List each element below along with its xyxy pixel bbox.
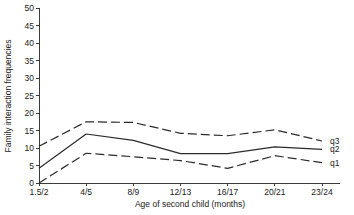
- series-line-q1: [39, 153, 322, 183]
- y-tick-group: 05101520253035404550: [25, 3, 39, 188]
- y-tick-label: 30: [25, 73, 35, 83]
- x-axis: 1.5/24/58/912/1316/1720/2123/24: [30, 183, 340, 197]
- y-tick-label: 45: [25, 21, 35, 31]
- series-label-q2: q2: [330, 144, 340, 154]
- x-tick-label: 23/24: [311, 187, 333, 197]
- y-tick-label: 25: [25, 91, 35, 101]
- y-tick-label: 50: [25, 3, 35, 13]
- y-tick-label: 35: [25, 56, 35, 66]
- x-tick-label: 12/13: [170, 187, 192, 197]
- chart-container: 05101520253035404550 1.5/24/58/912/1316/…: [0, 0, 354, 215]
- y-axis: 05101520253035404550: [25, 3, 39, 188]
- series-group: [39, 122, 322, 183]
- series-label-q1: q1: [330, 158, 340, 168]
- y-tick-label: 10: [25, 143, 35, 153]
- series-label-group: q3q2q1: [330, 136, 340, 168]
- line-chart: 05101520253035404550 1.5/24/58/912/1316/…: [0, 0, 354, 215]
- x-axis-title: Age of second child (months): [135, 199, 245, 209]
- x-tick-label: 1.5/2: [30, 187, 49, 197]
- y-tick-label: 15: [25, 126, 35, 136]
- x-tick-label: 16/17: [217, 187, 239, 197]
- x-tick-label: 4/5: [80, 187, 92, 197]
- series-line-q2: [39, 134, 322, 168]
- series-line-q3: [39, 122, 322, 147]
- y-tick-label: 20: [25, 108, 35, 118]
- x-tick-group: 1.5/24/58/912/1316/1720/2123/24: [30, 183, 333, 197]
- x-tick-label: 8/9: [127, 187, 139, 197]
- y-tick-label: 5: [29, 161, 34, 171]
- y-tick-label: 40: [25, 38, 35, 48]
- x-tick-label: 20/21: [264, 187, 286, 197]
- y-axis-title: Family interaction frequencies: [3, 40, 13, 153]
